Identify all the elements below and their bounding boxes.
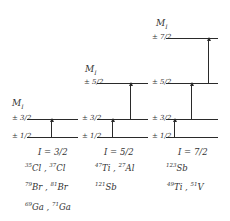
level-label-3-2: ± 3/2 <box>152 114 171 122</box>
level-label-1-2: ± 1/2 <box>12 132 31 140</box>
nuclei-row: 47Ti , 27Al <box>95 162 134 173</box>
nuclei-row: 35Cl , 37Cl <box>25 162 66 173</box>
level-label-7-2: ± 7/2 <box>152 33 171 41</box>
energy-level-5-2 <box>97 83 148 84</box>
level-label-5-2: ± 5/2 <box>152 78 171 86</box>
nuclei-row: 79Br , 81Br <box>25 181 68 192</box>
transition-arrow <box>112 119 113 137</box>
nuclei-row: 69Ga , 71Ga <box>25 201 71 212</box>
spin-label: I = 3/2 <box>38 147 68 157</box>
level-label-5-2: ± 5/2 <box>84 78 103 86</box>
nuclei-row: 49Ti , 51V <box>167 181 204 192</box>
mi-axis-label: MI <box>85 64 97 78</box>
energy-level-1-2 <box>97 137 148 138</box>
transition-arrow <box>191 83 192 119</box>
mi-axis-label: MI <box>12 98 24 112</box>
energy-level-3-2 <box>97 119 148 120</box>
mi-axis-label: MI <box>156 18 168 32</box>
level-label-3-2: ± 3/2 <box>12 114 31 122</box>
level-label-1-2: ± 1/2 <box>152 132 171 140</box>
nuclei-row: 121Sb <box>95 181 117 192</box>
transition-arrow <box>51 119 52 137</box>
spin-label: I = 7/2 <box>178 147 208 157</box>
transition-arrow <box>130 83 131 119</box>
spin-label: I = 5/2 <box>104 147 134 157</box>
transition-arrow <box>174 119 175 137</box>
energy-level-1-2 <box>27 137 78 138</box>
energy-level-1-2 <box>166 137 218 138</box>
nuclei-row: 123Sb <box>166 162 188 173</box>
level-label-1-2: ± 1/2 <box>82 132 101 140</box>
level-label-3-2: ± 3/2 <box>82 114 101 122</box>
transition-arrow <box>208 38 209 83</box>
